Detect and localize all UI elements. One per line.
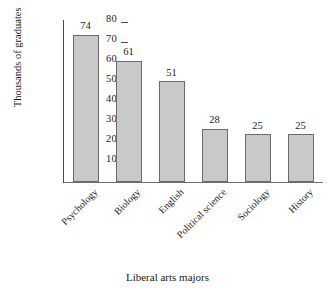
x-axis-category-text: History [286,187,315,216]
bar-group[interactable]: 28 [202,22,228,182]
bar[interactable] [202,129,228,182]
bar-group[interactable]: 51 [159,22,185,182]
bar[interactable] [159,81,185,182]
bar[interactable] [116,61,142,182]
bar[interactable] [288,134,314,182]
bar-group[interactable]: 74 [73,22,99,182]
x-axis-category-text: English [157,187,186,216]
x-axis-category-text: Psychology [59,187,99,227]
bar-group[interactable]: 61 [116,22,142,182]
plot-area: 8070605040302010 746151282525 [64,22,322,182]
y-axis-title: Thousands of graduates [13,0,24,137]
bar-value-label: 61 [123,47,134,58]
x-axis-category-text: Sociology [236,187,272,223]
bar-value-label: 28 [209,115,220,126]
bar-value-label: 25 [252,121,263,132]
bar-value-label: 74 [80,21,91,32]
bar-value-label: 25 [295,121,306,132]
bar-chart-figure: Thousands of graduates 8070605040302010 … [0,0,335,296]
bar-value-label: 51 [166,68,177,79]
bar-group[interactable]: 25 [288,22,314,182]
x-axis-category-text: Biology [113,187,143,217]
bar[interactable] [73,35,99,182]
bar-group[interactable]: 25 [245,22,271,182]
x-axis-line [64,182,323,183]
x-axis-title: Liberal arts majors [0,272,335,283]
bar[interactable] [245,134,271,182]
